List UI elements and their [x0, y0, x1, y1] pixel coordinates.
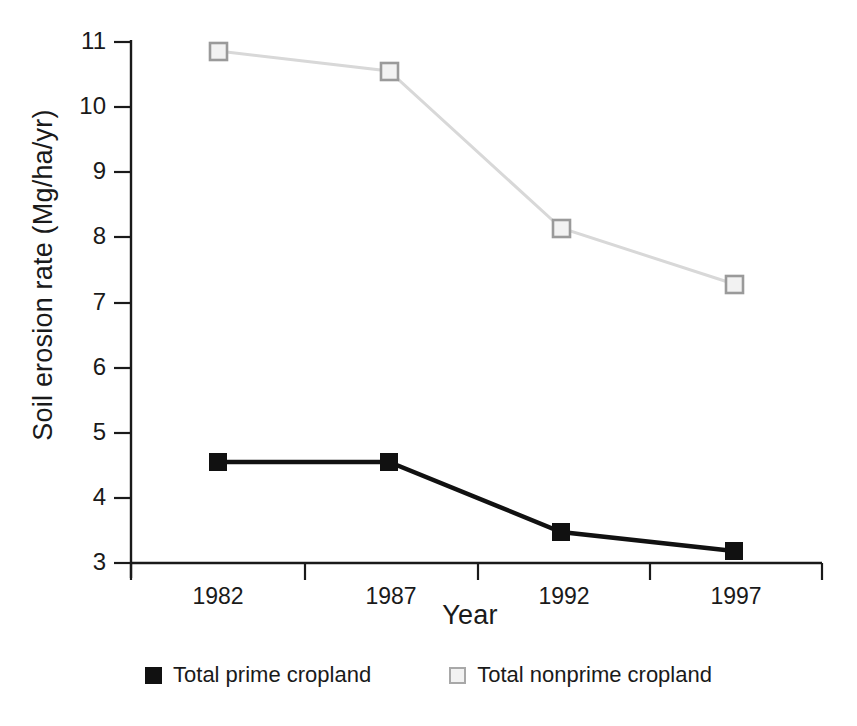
data-point-nonprime-1982 — [210, 43, 227, 60]
legend-label-nonprime: Total nonprime cropland — [477, 662, 712, 688]
x-axis-ticks — [131, 563, 822, 580]
data-point-nonprime-1992 — [553, 220, 570, 237]
data-point-nonprime-1997 — [726, 276, 743, 293]
series-line-nonprime — [218, 51, 734, 284]
y-axis-ticks — [114, 42, 131, 563]
series-line-prime — [218, 462, 734, 551]
y-axis-title: Soil erosion rate (Mg/ha/yr) — [28, 40, 59, 510]
data-point-prime-1987 — [380, 453, 398, 471]
x-axis-title: Year — [380, 600, 560, 631]
xtick-label-1982: 1982 — [158, 583, 278, 610]
ytick-label-4: 4 — [66, 483, 106, 511]
ytick-label-3: 3 — [66, 548, 106, 576]
ytick-label-9: 9 — [66, 157, 106, 185]
data-point-prime-1992 — [552, 523, 570, 541]
chart-figure: 11 10 9 8 7 6 5 4 3 1982 1987 1992 1997 … — [0, 0, 857, 726]
ytick-label-11: 11 — [66, 27, 106, 55]
filled-square-icon — [145, 667, 162, 684]
ytick-label-6: 6 — [66, 353, 106, 381]
ytick-label-10: 10 — [66, 92, 106, 120]
legend-item-total-prime-cropland: Total prime cropland — [145, 662, 371, 688]
legend-item-total-nonprime-cropland: Total nonprime cropland — [449, 662, 712, 688]
ytick-label-5: 5 — [66, 418, 106, 446]
xtick-label-1997: 1997 — [676, 583, 796, 610]
ytick-label-8: 8 — [66, 222, 106, 250]
data-point-prime-1982 — [209, 453, 227, 471]
data-point-nonprime-1987 — [381, 63, 398, 80]
series-total-nonprime-cropland — [210, 43, 743, 293]
legend-label-prime: Total prime cropland — [173, 662, 371, 688]
data-point-prime-1997 — [725, 542, 743, 560]
ytick-label-7: 7 — [66, 288, 106, 316]
chart-legend: Total prime cropland Total nonprime crop… — [0, 662, 857, 688]
open-square-icon — [449, 667, 466, 684]
series-total-prime-cropland — [209, 453, 743, 560]
